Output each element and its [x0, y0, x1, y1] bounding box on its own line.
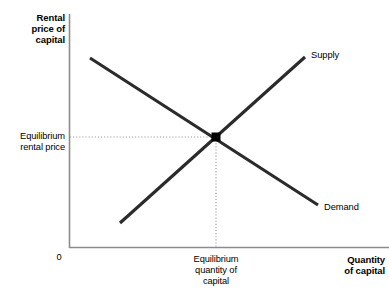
origin-label: 0: [52, 252, 66, 263]
equilibrium-point-marker: [212, 133, 221, 142]
demand-curve-label: Demand: [324, 202, 359, 213]
x-axis-title: Quantity of capital: [303, 254, 385, 276]
demand-curve: [90, 58, 318, 205]
supply-curve-label: Supply: [311, 50, 339, 61]
equilibrium-rental-price-label: Equilibrium rental price: [0, 131, 65, 153]
y-axis-title: Rental price of capital: [0, 12, 65, 46]
supply-demand-figure: Rental price of capital Equilibrium rent…: [0, 0, 389, 304]
equilibrium-quantity-label: Equilibrium quantity of capital: [166, 254, 266, 287]
